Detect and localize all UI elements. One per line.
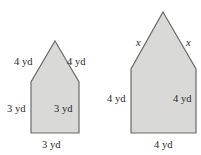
large-pentagon-shape [131, 12, 196, 133]
small-pentagon-shape [31, 41, 79, 133]
similar-figures-diagram: 4 yd 4 yd 3 yd 3 yd 3 yd x x 4 yd 4 yd 4… [0, 0, 201, 155]
large-base-label: 4 yd [154, 139, 173, 150]
small-right-roof-label: 4 yd [67, 56, 86, 67]
large-left-roof-label: x [135, 37, 141, 48]
large-right-wall-label: 4 yd [173, 93, 192, 104]
small-left-roof-label: 4 yd [14, 56, 33, 67]
small-right-wall-label: 3 yd [54, 103, 73, 114]
large-left-wall-label: 4 yd [107, 93, 126, 104]
small-left-wall-label: 3 yd [7, 103, 26, 114]
small-base-label: 3 yd [42, 139, 61, 150]
large-right-roof-label: x [185, 37, 191, 48]
